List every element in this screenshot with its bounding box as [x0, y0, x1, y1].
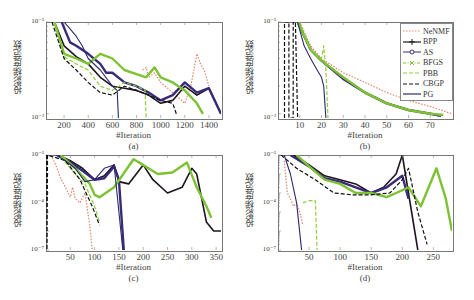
- x-tick-label: 250: [427, 252, 441, 262]
- y-axis-label: 投影梯度范数: [242, 173, 255, 227]
- legend-item-bfgs: BFGS: [403, 58, 443, 68]
- series-pbb: [303, 201, 317, 250]
- legend-swatch-cbgp-icon: [403, 79, 421, 89]
- legend-swatch-nenmf-icon: [403, 26, 421, 36]
- legend-item-cbgp: CBGP: [403, 79, 444, 89]
- series-bfgs: [297, 155, 452, 231]
- y-tick-label: 10⁻⁴: [258, 198, 276, 206]
- legend-item-pbb: PBB: [403, 68, 438, 78]
- y-tick-label: 10⁻¹: [258, 150, 276, 158]
- legend-item-pg: PG: [403, 89, 433, 99]
- x-tick-label: 50: [305, 252, 314, 262]
- legend-swatch-bpp-icon: [403, 37, 421, 47]
- x-axis-label: #Iteration: [348, 262, 383, 272]
- series-pg: [284, 155, 301, 250]
- legend-swatch-pg-icon: [403, 89, 421, 99]
- x-tick-label: 200: [396, 252, 410, 262]
- x-tick-label: 100: [333, 252, 347, 262]
- legend-swatch-bfgs-icon: [403, 58, 421, 68]
- y-tick-label: 10⁻⁷: [258, 245, 276, 253]
- legend-item-nenmf: NeNMF: [403, 26, 450, 36]
- x-tick-label: 150: [364, 252, 378, 262]
- legend-item-bpp: BPP: [403, 37, 437, 47]
- panel-caption: (d): [360, 273, 371, 283]
- legend-item-as: AS: [403, 47, 433, 57]
- legend-swatch-as-icon: [403, 47, 421, 57]
- legend: NeNMF BPP AS BFGS PBB CBGP PG: [400, 23, 453, 101]
- legend-swatch-pbb-icon: [403, 68, 421, 78]
